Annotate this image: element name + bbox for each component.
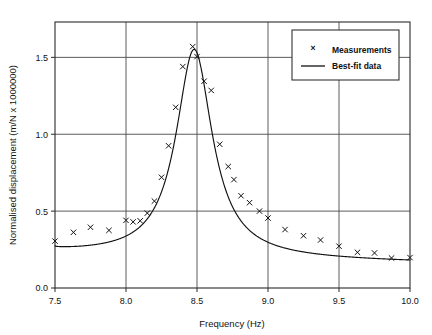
y-tick-label: 0.0 [35, 283, 48, 293]
legend-marker-x-icon: × [311, 43, 316, 53]
legend-label-best-fit: Best-fit data [332, 61, 381, 71]
x-axis-title: Frequency (Hz) [199, 318, 264, 329]
legend-box [292, 30, 399, 80]
chart-legend: × Measurements Best-fit data [292, 30, 399, 80]
resonance-chart-figure: 7.58.08.59.09.510.0 0.00.51.01.5 Frequen… [0, 0, 432, 335]
y-tick-label: 1.5 [35, 53, 48, 63]
x-tick-label: 9.5 [333, 296, 346, 306]
legend-label-measurements: Measurements [332, 45, 392, 55]
x-tick-label: 8.5 [191, 296, 204, 306]
y-axis-title: Normalised displacement (m/N x 1000000) [7, 65, 18, 245]
chart-canvas: 7.58.08.59.09.510.0 0.00.51.01.5 Frequen… [0, 0, 432, 335]
x-tick-label: 10.0 [401, 296, 419, 306]
x-tick-label: 7.5 [49, 296, 62, 306]
x-tick-label: 9.0 [262, 296, 275, 306]
y-tick-label: 0.5 [35, 207, 48, 217]
y-tick-label: 1.0 [35, 130, 48, 140]
x-tick-label: 8.0 [120, 296, 133, 306]
